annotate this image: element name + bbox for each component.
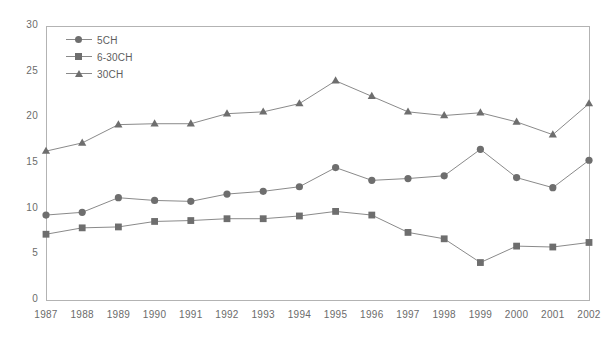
data-point xyxy=(187,198,194,205)
data-point xyxy=(368,177,375,184)
data-point xyxy=(151,197,158,204)
x-axis-tick-label: 1991 xyxy=(171,309,211,320)
data-point xyxy=(405,229,412,236)
data-point xyxy=(441,172,448,179)
data-point xyxy=(260,188,267,195)
x-axis-tick-label: 1987 xyxy=(26,309,66,320)
x-axis-tick-label: 1989 xyxy=(98,309,138,320)
data-point xyxy=(79,224,86,231)
data-point xyxy=(260,215,267,222)
data-point xyxy=(43,231,50,238)
y-axis-tick-label: 20 xyxy=(8,110,38,121)
data-point xyxy=(223,109,231,116)
legend-swatch xyxy=(66,34,92,46)
data-point xyxy=(441,235,448,242)
data-point xyxy=(115,224,122,231)
y-axis-tick-label: 10 xyxy=(8,202,38,213)
y-axis-tick-label: 5 xyxy=(8,247,38,258)
y-axis-tick-label: 25 xyxy=(8,65,38,76)
y-axis-tick-label: 0 xyxy=(8,293,38,304)
series-30ch xyxy=(42,76,593,154)
data-point xyxy=(513,174,520,181)
legend-item: 6-30CH xyxy=(66,49,180,65)
line-chart: 302520151050 198719881989199019911992199… xyxy=(0,0,602,343)
legend-item: 30CH xyxy=(66,66,180,82)
x-axis-tick-label: 1988 xyxy=(62,309,102,320)
data-point xyxy=(296,213,303,220)
data-point xyxy=(115,194,122,201)
chart-legend: 5CH6-30CH30CH xyxy=(62,28,182,87)
data-point xyxy=(440,111,448,118)
series-layer xyxy=(42,76,593,266)
x-axis-tick-label: 1999 xyxy=(460,309,500,320)
series-6-30ch xyxy=(43,208,593,266)
data-point xyxy=(585,157,592,164)
data-point xyxy=(549,184,556,191)
data-point xyxy=(114,120,122,127)
data-point xyxy=(224,215,231,222)
x-axis-tick-label: 1996 xyxy=(352,309,392,320)
data-point xyxy=(296,183,303,190)
legend-item: 5CH xyxy=(66,32,180,48)
x-axis-tick-label: 1992 xyxy=(207,309,247,320)
data-point xyxy=(549,244,556,251)
data-point xyxy=(477,259,484,266)
data-point xyxy=(295,99,303,106)
data-point xyxy=(332,76,340,83)
data-point xyxy=(404,175,411,182)
data-point xyxy=(332,164,339,171)
series-5ch xyxy=(42,146,592,219)
x-axis-tick-label: 1997 xyxy=(388,309,428,320)
series-line xyxy=(46,81,589,151)
legend-item-label: 30CH xyxy=(97,69,123,80)
data-point xyxy=(513,243,520,250)
x-axis-tick-label: 1994 xyxy=(279,309,319,320)
data-point xyxy=(79,209,86,216)
x-axis-tick-label: 2002 xyxy=(569,309,602,320)
data-point xyxy=(368,212,375,219)
series-line xyxy=(46,149,589,215)
legend-swatch xyxy=(66,51,92,63)
data-point xyxy=(585,99,593,106)
series-line xyxy=(46,211,589,262)
legend-item-label: 5CH xyxy=(97,35,118,46)
x-axis-tick-label: 1993 xyxy=(243,309,283,320)
data-point xyxy=(78,138,86,145)
y-axis-tick-label: 30 xyxy=(8,19,38,30)
x-axis-tick-label: 2000 xyxy=(497,309,537,320)
x-axis-tick-label: 1995 xyxy=(316,309,356,320)
x-axis-tick-label: 1998 xyxy=(424,309,464,320)
legend-item-label: 6-30CH xyxy=(97,52,133,63)
data-point xyxy=(586,239,593,246)
data-point xyxy=(223,190,230,197)
data-point xyxy=(187,217,194,224)
square-marker-icon xyxy=(75,53,82,60)
triangle-marker-icon xyxy=(75,70,83,77)
legend-swatch xyxy=(66,68,92,80)
data-point xyxy=(42,211,49,218)
data-point xyxy=(332,208,339,215)
circle-marker-icon xyxy=(75,36,82,43)
data-point xyxy=(151,119,159,126)
x-axis-tick-label: 1990 xyxy=(135,309,175,320)
x-axis-tick-label: 2001 xyxy=(533,309,573,320)
data-point xyxy=(476,108,484,115)
data-point xyxy=(151,218,158,225)
y-axis-tick-label: 15 xyxy=(8,156,38,167)
data-point xyxy=(477,146,484,153)
